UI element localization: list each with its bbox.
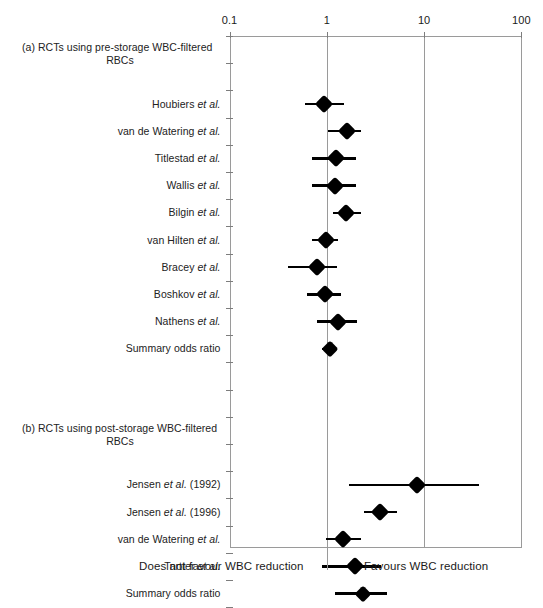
point-estimate-diamond [346,557,364,575]
y-axis-tick [226,390,233,391]
row-label-nathens: Nathens et al. [155,315,221,327]
y-axis-tick [226,580,233,581]
y-axis-tick [226,281,233,282]
y-axis-tick [226,335,233,336]
y-axis-tick [226,226,233,227]
section-heading-a: (a) RCTs using pre-storage WBC-filteredR… [22,41,218,67]
section-heading-line2: RBCs [22,54,218,67]
y-axis-tick [226,362,233,363]
y-axis-tick [226,444,233,445]
y-axis-tick [226,308,233,309]
y-axis-tick [226,471,233,472]
row-label-jensen: Jensen et al. (1996) [127,506,221,518]
footer-label-left: Does not favour WBC reduction [139,560,304,572]
x-tick-label-0.1: 0.1 [222,14,238,26]
row-label-van-de-watering: van de Watering et al. [118,533,221,545]
x-tick-mark-100 [521,32,522,38]
section-heading-b: (b) RCTs using post-storage WBC-filtered… [22,422,218,448]
y-axis-tick [226,553,233,554]
row-label-titlestad: Titlestad et al. [155,152,221,164]
row-label-summary-odds-ratio: Summary odds ratio [126,342,221,354]
row-label-boshkov: Boshkov et al. [154,288,221,300]
section-heading-line1: (b) RCTs using post-storage WBC-filtered [22,422,218,435]
y-axis-tick [226,199,233,200]
gridline-10 [424,36,425,548]
footer-reference-divider [327,548,328,570]
y-axis-tick [226,63,233,64]
row-label-wallis: Wallis et al. [167,179,221,191]
x-tick-label-1: 1 [324,14,330,26]
x-tick-label-100: 100 [512,14,531,26]
y-axis-tick [226,172,233,173]
row-label-van-hilten: van Hilten et al. [147,234,220,246]
y-axis-tick [226,145,233,146]
section-heading-line2: RBCs [22,435,218,448]
row-label-summary-odds-ratio: Summary odds ratio [126,587,221,599]
y-axis-tick [226,118,233,119]
x-tick-mark-1 [327,32,328,38]
y-axis-tick [226,526,233,527]
y-axis-tick [226,90,233,91]
row-label-van-de-watering: van de Watering et al. [118,125,221,137]
x-tick-mark-10 [424,32,425,38]
y-axis-tick [226,498,233,499]
footer-label-right: Favours WBC reduction [364,560,488,572]
row-label-houbiers: Houbiers et al. [152,98,220,110]
point-estimate-diamond [354,585,371,602]
x-tick-label-10: 10 [418,14,430,26]
y-axis-tick [226,254,233,255]
row-label-bracey: Bracey et al. [161,261,220,273]
x-tick-mark-0.1 [230,32,231,38]
plot-frame [230,36,522,548]
row-label-jensen: Jensen et al. (1992) [127,478,221,490]
y-axis-tick [226,417,233,418]
y-axis-tick [226,36,233,37]
section-heading-line1: (a) RCTs using pre-storage WBC-filtered [22,41,218,54]
row-label-bilgin: Bilgin et al. [168,206,220,218]
